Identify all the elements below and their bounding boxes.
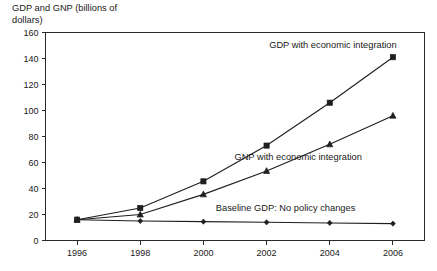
y-axis-tick-label: 60 (28, 158, 38, 168)
x-axis-tick-label: 2004 (320, 248, 340, 258)
y-axis-ticks-group: 020406080100120140160 (23, 28, 45, 246)
diamond-marker-icon (327, 220, 332, 225)
square-marker-icon (201, 179, 206, 184)
y-axis-tick-label: 40 (28, 184, 38, 194)
series-line (77, 57, 393, 220)
diamond-marker-icon (201, 219, 206, 224)
y-axis-tick-label: 100 (23, 106, 38, 116)
x-axis-tick-label: 1996 (67, 248, 87, 258)
diamond-marker-icon (138, 218, 143, 223)
y-axis-tick-label: 120 (23, 80, 38, 90)
diamond-marker-icon (391, 221, 396, 226)
x-axis-ticks-group: 199619982000200220042006 (67, 241, 403, 258)
data-series (74, 55, 395, 223)
y-axis-tick-label: 160 (23, 28, 38, 38)
y-axis-tick-label: 140 (23, 54, 38, 64)
data-series-group (74, 55, 396, 227)
triangle-marker-icon (390, 112, 396, 118)
square-marker-icon (138, 205, 143, 210)
square-marker-icon (264, 143, 269, 148)
x-axis-tick-label: 2002 (257, 248, 277, 258)
square-marker-icon (390, 55, 395, 60)
chart-figure: GDP and GNP (billions of dollars) 020406… (0, 0, 437, 271)
x-axis-tick-label: 1998 (130, 248, 150, 258)
series-line (77, 220, 393, 224)
x-axis-tick-label: 2006 (383, 248, 403, 258)
series-annotation-label: Baseline GDP: No policy changes (216, 203, 356, 213)
x-axis-tick-label: 2000 (193, 248, 213, 258)
y-axis-tick-label: 80 (28, 132, 38, 142)
square-marker-icon (327, 100, 332, 105)
line-chart-svg: 020406080100120140160 199619982000200220… (0, 0, 437, 271)
y-axis-tick-label: 20 (28, 210, 38, 220)
data-series (75, 217, 396, 226)
diamond-marker-icon (264, 220, 269, 225)
y-axis-tick-label: 0 (33, 236, 38, 246)
series-annotation-label: GNP with economic integration (234, 152, 361, 162)
series-annotation-label: GDP with economic integration (269, 40, 396, 50)
